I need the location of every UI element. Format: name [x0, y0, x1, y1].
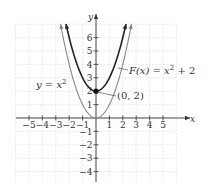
x-tick-label: 2: [120, 120, 126, 130]
graph: −5−4−3−2−112345−4−3−2−1123456 x y y = x2…: [0, 0, 210, 194]
y-tick-label: −2: [79, 140, 92, 150]
x-tick-label: −3: [49, 120, 63, 130]
point-label: (0, 2): [117, 90, 144, 101]
x-tick-label: −5: [22, 120, 36, 130]
curve-arrow-icon: [128, 24, 132, 29]
x-tick-label: 4: [147, 120, 153, 130]
axes: −5−4−3−2−112345−4−3−2−1123456: [16, 14, 190, 182]
x-axis-label: x: [190, 114, 195, 124]
curve-arrow-icon: [59, 24, 63, 29]
x-tick-label: −4: [36, 120, 50, 130]
point-leader-line: [97, 92, 116, 96]
labels: x y y = x2 F(x) = x2 + 2 (0, 2): [35, 12, 195, 124]
y-axis-label: y: [87, 12, 94, 22]
point-0-2-marker: [93, 89, 98, 94]
y-tick-label: −4: [79, 167, 93, 177]
y-tick-label: −3: [79, 153, 93, 163]
y-tick-label: 6: [87, 33, 93, 43]
y-tick-label: 4: [87, 60, 93, 70]
y-tick-label: 5: [87, 46, 93, 56]
y-axis-arrow-icon: [94, 14, 98, 19]
x-tick-label: 3: [133, 120, 139, 130]
curve-label-y-x2: y = x2: [35, 78, 67, 90]
y-tick-label: 3: [87, 73, 93, 83]
y-tick-label: −1: [79, 127, 92, 137]
x-tick-label: −2: [63, 120, 76, 130]
curve-label-F: F(x) = x2 + 2: [128, 64, 195, 76]
x-tick-label: 1: [107, 120, 113, 130]
x-tick-label: 5: [160, 120, 166, 130]
y-tick-label: 1: [87, 100, 93, 110]
